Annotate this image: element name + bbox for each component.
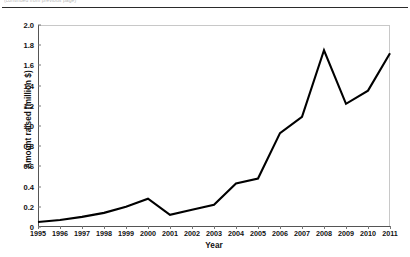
- x-axis-tick-label: 2009: [338, 229, 354, 238]
- y-axis-tick-labels: 00.20.40.60.81.01.21.41.61.82.0: [4, 25, 34, 227]
- x-axis-tick-label: 2002: [184, 229, 200, 238]
- x-axis-tick-label: 2004: [228, 229, 244, 238]
- x-axis-title: Year: [38, 241, 390, 250]
- x-axis-tick-label: 2003: [206, 229, 222, 238]
- chart-page: (continued from previous page) Amount ra…: [0, 0, 410, 257]
- y-axis-tick-label: 1.8: [8, 41, 34, 50]
- y-axis-tick-label: 1.0: [8, 122, 34, 131]
- x-axis-tick-label: 1997: [74, 229, 90, 238]
- line-chart: Amount raised (million $) 00.20.40.60.81…: [0, 12, 410, 257]
- y-axis-tick-label: 0.4: [8, 182, 34, 191]
- x-axis-tick-label: 2006: [272, 229, 288, 238]
- y-axis-tick-label: 0.6: [8, 162, 34, 171]
- x-axis-tick-mark: [390, 226, 391, 229]
- y-axis-tick-label: 1.6: [8, 61, 34, 70]
- x-axis-tick-label: 2005: [250, 229, 266, 238]
- y-axis-tick-label: 0.8: [8, 142, 34, 151]
- x-axis-tick-label: 2007: [294, 229, 310, 238]
- data-series-line: [38, 25, 390, 227]
- x-axis-tick-label: 2011: [382, 229, 398, 238]
- y-axis-tick-label: 0.2: [8, 202, 34, 211]
- horizontal-rule: [2, 7, 408, 8]
- x-axis-tick-label: 2010: [360, 229, 376, 238]
- x-axis-tick-label: 1996: [52, 229, 68, 238]
- y-axis-tick-label: 2.0: [8, 21, 34, 30]
- x-axis-tick-label: 2000: [140, 229, 156, 238]
- x-axis-tick-label: 2001: [162, 229, 178, 238]
- y-axis-tick-label: 1.2: [8, 101, 34, 110]
- x-axis-tick-label: 2008: [316, 229, 332, 238]
- x-axis-tick-label: 1995: [30, 229, 46, 238]
- caption-fragment: (continued from previous page): [4, 0, 184, 4]
- x-axis-tick-label: 1999: [118, 229, 134, 238]
- y-axis-tick-label: 1.4: [8, 81, 34, 90]
- x-axis-tick-label: 1998: [96, 229, 112, 238]
